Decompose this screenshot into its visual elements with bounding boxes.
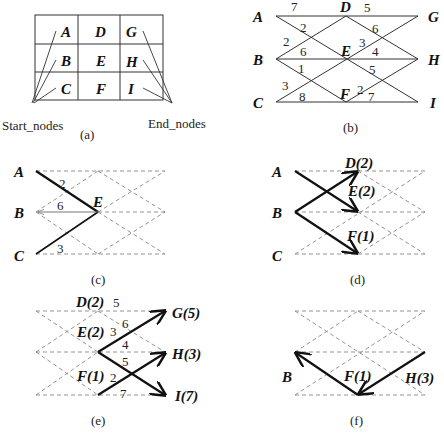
weight-DG: 5 [113,295,120,310]
panel-b: A B C D E F G H I 7 2 2 6 1 3 8 5 6 3 4 … [252,0,441,135]
weight-EH: 4 [122,337,129,352]
weight-BF: 1 [298,61,305,76]
caption-e: (e) [91,413,105,428]
grid-node-E: E [95,53,106,69]
grid-node-B: B [60,53,71,69]
node-A: A [271,164,282,180]
node-H-dist: H(3) [404,370,434,387]
node-I-dist: I(7) [174,388,198,405]
node-D-dist: D(2) [344,155,373,172]
weight-CE: 3 [282,78,289,93]
weight-EI: 5 [369,62,376,77]
caption-c: (c) [91,272,105,287]
node-B: B [271,205,282,221]
panel-e: D(2) E(2) F(1) G(5) H(3) I(7) 5 6 3 4 5 … [36,294,201,428]
panel-f: B F(1) H(3) (f) [281,311,434,428]
node-E: E [340,43,351,59]
node-G: G [428,9,439,25]
caption-f: (f) [350,413,363,428]
weight-EI: 5 [122,354,129,369]
grid-node-I: I [127,81,135,97]
node-C: C [272,248,283,264]
node-H-dist: H(3) [171,346,201,363]
weight-EH: 4 [372,44,379,59]
weight-FI: 7 [120,386,127,401]
node-B: B [13,205,24,221]
node-A: A [252,9,263,25]
node-I: I [429,95,437,111]
node-G-dist: G(5) [172,305,200,322]
weight-FH: 2 [110,370,117,385]
weight-CF: 8 [299,89,306,104]
panel-c: A B C E 2 6 3 (c) [13,164,165,287]
end-nodes-label: End_nodes [148,116,206,131]
panel-a: A D G B E H C F I Start_nodes End_nodes … [2,15,206,142]
grid-node-C: C [61,81,72,97]
shortest-path-figure: A D G B E H C F I Start_nodes End_nodes … [0,0,444,433]
start-nodes-label: Start_nodes [2,118,63,133]
weight-BE: 6 [57,198,64,213]
node-F-dist: F(1) [76,368,105,385]
node-D-dist: D(2) [75,294,104,311]
caption-d: (d) [350,272,365,287]
node-H: H [427,52,441,68]
grid-node-H: H [125,54,139,70]
weight-EG: 3 [359,35,366,50]
weight-CE: 3 [57,241,64,256]
weight-EG: 3 [110,324,117,339]
panel-d: A B C D(2) E(2) F(1) (d) [271,155,425,287]
weight-DH: 6 [122,316,129,331]
grid-node-A: A [60,24,71,40]
grid-node-F: F [95,81,106,97]
weight-AD: 7 [291,0,298,14]
weight-AE: 2 [300,20,307,35]
caption-a: (a) [80,127,94,142]
weight-FH: 2 [357,82,364,97]
node-E-dist: E(2) [76,324,105,341]
node-C: C [14,248,25,264]
weight-FI: 7 [368,89,375,104]
node-F-dist: F(1) [343,368,372,385]
node-D: D [339,0,351,15]
node-A: A [13,164,24,180]
weight-AE: 2 [59,176,66,191]
node-E-dist: E(2) [347,183,376,200]
weight-BE: 6 [300,44,307,59]
caption-b: (b) [343,120,358,135]
node-B: B [252,52,263,68]
node-F: F [339,86,350,102]
weight-BD: 2 [283,34,290,49]
weight-DG: 5 [364,0,371,15]
node-C: C [253,95,264,111]
grid-node-D: D [94,24,106,40]
weight-DH: 6 [372,21,379,36]
node-F-dist: F(1) [346,228,375,245]
grid-node-G: G [126,24,137,40]
node-B: B [281,369,292,385]
node-E: E [92,194,103,210]
